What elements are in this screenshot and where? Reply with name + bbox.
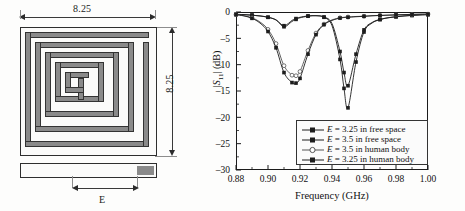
y-axis-tick-label: –20 xyxy=(215,113,231,123)
x-axis-tick-label: 0.90 xyxy=(260,174,277,184)
chart-data-point xyxy=(338,16,342,20)
chart-data-point xyxy=(342,71,346,75)
ext-line-right xyxy=(155,10,156,19)
s11-chart-panel: 0–5–10–15–20–25–300.880.900.920.940.960.… xyxy=(200,0,465,211)
chart-data-point xyxy=(378,14,382,18)
spiral-trace-segment xyxy=(35,126,134,132)
chart-data-point xyxy=(266,15,270,19)
chart-data-point xyxy=(394,13,398,17)
chart-data-point xyxy=(298,70,302,74)
chart-data-point xyxy=(282,25,286,29)
e-dimension-arrow-left xyxy=(72,185,78,191)
chart-data-point xyxy=(250,17,254,21)
x-axis-title: Frequency (GHz) xyxy=(236,190,428,201)
spiral-trace-segment xyxy=(55,62,104,68)
chart-data-point xyxy=(306,14,310,18)
x-axis-tick-label: 0.88 xyxy=(228,174,245,184)
chart-data-point xyxy=(266,30,270,34)
antenna-geometry-panel: 8.25 8.25 xyxy=(0,0,200,211)
legend-item: E = 3.25 in free space xyxy=(301,124,423,134)
height-dimension-label: 8.25 xyxy=(164,74,175,92)
spiral-trace-segment xyxy=(25,141,149,147)
chart-data-point xyxy=(298,77,302,81)
chart-data-point xyxy=(322,23,326,27)
chart-data-point xyxy=(290,73,294,77)
chart-data-point xyxy=(294,81,298,85)
y-axis-tick-label: 0 xyxy=(225,7,230,17)
chart-data-point xyxy=(282,64,286,68)
legend-label-series-2: E = 3.5 in human body xyxy=(325,144,410,154)
chart-data-point xyxy=(306,52,310,56)
feed-dimension-label: E xyxy=(99,194,105,205)
chart-data-point xyxy=(322,15,326,19)
legend-label-series-1: E = 3.5 in free space xyxy=(325,134,401,144)
spiral-trace-segment xyxy=(143,42,149,147)
spiral-trace-segment xyxy=(35,42,41,132)
chart-data-point xyxy=(426,12,430,16)
spiral-trace-segment xyxy=(25,32,149,38)
spiral-trace-segment xyxy=(98,62,104,102)
chart-data-point xyxy=(234,13,238,17)
chart-data-point xyxy=(362,15,366,19)
chart-data-point xyxy=(362,30,366,34)
legend-item: E = 3.5 in free space xyxy=(301,134,423,144)
legend-label-series-0: E = 3.25 in free space xyxy=(325,124,406,134)
ext-line-top-right xyxy=(155,27,177,28)
y-axis-tick-label: –25 xyxy=(215,139,231,149)
spiral-trace-segment xyxy=(45,52,51,117)
chart-data-point xyxy=(294,74,298,78)
x-axis-tick-label: 0.96 xyxy=(356,174,373,184)
chart-data-point xyxy=(342,87,346,91)
spiral-trace-segment xyxy=(45,52,119,58)
x-axis-tick-label: 0.98 xyxy=(388,174,405,184)
chart-data-point xyxy=(338,58,342,62)
e-dimension-arrow-right xyxy=(133,185,139,191)
legend-symbol-series-3 xyxy=(301,155,325,164)
legend-item: E = 3.25 in human body xyxy=(301,154,423,164)
spiral-patch-substrate xyxy=(20,27,157,156)
x-axis-tick-label: 0.92 xyxy=(292,174,309,184)
width-dimension-label: 8.25 xyxy=(73,3,91,14)
legend-label-series-3: E = 3.25 in human body xyxy=(325,154,414,164)
spiral-trace-segment xyxy=(128,42,134,132)
ext-line-bottom-right xyxy=(155,156,177,157)
spiral-trace-segment xyxy=(25,32,31,147)
x-axis-tick-label: 1.00 xyxy=(420,174,437,184)
chart-data-point xyxy=(290,81,294,85)
chart-data-point xyxy=(346,15,350,19)
chart-data-point xyxy=(274,46,278,50)
chart-data-point xyxy=(346,84,350,88)
legend-symbol-series-2 xyxy=(301,145,325,154)
plot-canvas: 0–5–10–15–20–25–300.880.900.920.940.960.… xyxy=(200,0,465,211)
ext-line-left xyxy=(20,10,21,19)
spiral-trace-segment xyxy=(65,87,84,93)
chart-series-line xyxy=(236,14,428,108)
top-dimension-line xyxy=(24,17,152,18)
y-axis-title: |S11| (dB) xyxy=(211,29,225,109)
chart-data-point xyxy=(314,33,318,37)
chart-series-group xyxy=(234,12,430,109)
chart-data-point xyxy=(378,18,382,22)
x-axis-tick-label: 0.94 xyxy=(324,174,341,184)
chart-data-point xyxy=(294,18,298,22)
y-axis-title-text: |S11| (dB) xyxy=(211,51,222,88)
spiral-trace-segment xyxy=(35,42,134,48)
legend-symbol-series-1 xyxy=(301,135,325,144)
side-view-metal-segment xyxy=(137,166,154,175)
chart-legend: E = 3.25 in free space E = 3.5 in free s… xyxy=(296,120,428,165)
e-dimension-line xyxy=(77,188,133,189)
figure-root: 8.25 8.25 xyxy=(0,0,465,211)
spiral-trace-segment xyxy=(113,52,119,117)
legend-item: E = 3.5 in human body xyxy=(301,144,423,154)
chart-data-point xyxy=(410,13,414,17)
legend-symbol-series-0 xyxy=(301,125,325,134)
chart-data-point xyxy=(354,60,358,64)
chart-data-point xyxy=(346,106,350,110)
spiral-trace-segment xyxy=(45,111,119,117)
chart-data-point xyxy=(282,71,286,75)
